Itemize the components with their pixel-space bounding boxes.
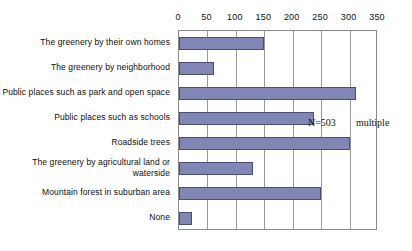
plot-area [178, 30, 377, 230]
bar [179, 87, 356, 100]
category-axis-labels: The greenery by their own homesThe green… [0, 30, 174, 230]
category-label: None [0, 212, 170, 223]
x-tick-label: 150 [255, 12, 271, 23]
bar-row [179, 37, 376, 50]
bar [179, 62, 214, 75]
bar-row [179, 87, 376, 100]
bar [179, 37, 264, 50]
x-tick-label: 250 [312, 12, 328, 23]
bar [179, 137, 350, 150]
x-tick-label: 200 [284, 12, 300, 23]
x-axis-tick-labels: 050100150200250300350 [178, 12, 363, 26]
x-tick-label: 0 [175, 12, 180, 23]
category-label: The greenery by agricultural land or wat… [0, 157, 170, 178]
bar-row [179, 137, 376, 150]
bar [179, 112, 314, 125]
bars-layer [179, 31, 376, 229]
category-label: Mountain forest in suburban area [0, 187, 170, 198]
x-tick-label: 50 [201, 12, 211, 23]
bar [179, 162, 253, 175]
bar-row [179, 187, 376, 200]
category-label: Roadside trees [0, 137, 170, 148]
bar-row [179, 162, 376, 175]
bar [179, 212, 192, 225]
category-label: Public places such as schools [0, 112, 170, 123]
category-label: The greenery by neighborhood [0, 62, 170, 73]
bar [179, 187, 321, 200]
bar-row [179, 112, 376, 125]
bar-row [179, 212, 376, 225]
category-label: Public places such as park and open spac… [0, 87, 170, 98]
x-tick-label: 350 [369, 12, 385, 23]
x-tick-label: 300 [341, 12, 357, 23]
sample-size-annotation: N=503 [308, 117, 336, 129]
bar-row [179, 62, 376, 75]
multiple-answer-annotation: multiple [356, 117, 389, 129]
bar-chart: 050100150200250300350 The greenery by th… [0, 0, 412, 251]
category-label: The greenery by their own homes [0, 37, 170, 48]
x-tick-label: 100 [227, 12, 243, 23]
